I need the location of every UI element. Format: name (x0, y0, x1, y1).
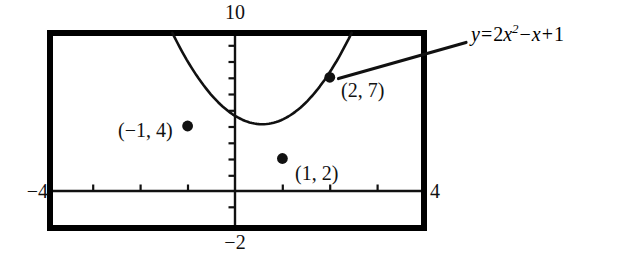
x-min-label: −4 (14, 181, 48, 201)
y-max-label: 10 (203, 2, 267, 22)
equation-label: y=2x2−x+1 (471, 23, 564, 46)
equation-equals: = (480, 23, 493, 45)
data-point-marker (182, 121, 193, 132)
point-label-minus1-4: (−1, 4) (118, 120, 173, 140)
point-label-2-7: (2, 7) (341, 80, 384, 100)
data-point-marker (277, 153, 288, 164)
equation-coefficient: 2 (493, 23, 503, 45)
graph-figure: 10 −2 −4 4 (−1, 4) (1, 2) (2, 7) y=2x2−x… (0, 0, 619, 259)
equation-lhs: y (471, 23, 480, 45)
equation-plus-sign: + (541, 23, 554, 45)
y-min-label: −2 (203, 232, 267, 252)
equation-constant: 1 (554, 23, 564, 45)
point-label-1-2: (1, 2) (295, 163, 338, 183)
equation-exponent: 2 (512, 21, 519, 36)
equation-linear-term: x (532, 23, 541, 45)
plot-background (50, 33, 424, 228)
equation-minus-sign: − (519, 23, 532, 45)
x-max-label: 4 (430, 181, 464, 201)
data-point-marker (324, 72, 335, 83)
equation-variable: x (503, 23, 512, 45)
